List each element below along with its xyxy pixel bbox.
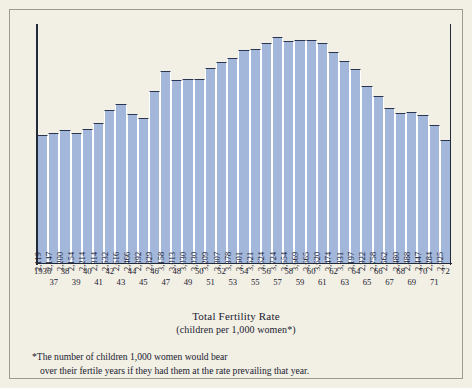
bar-48: 3,013: [171, 80, 182, 264]
bar-52: 3,307: [216, 62, 227, 264]
bar-series: 2,1192,1472,2002,1542,2142,3142,5322,616…: [37, 26, 451, 264]
bar-64: 3,197: [350, 69, 361, 264]
bar-46: 2,829: [149, 91, 160, 264]
bar-43: 2,616: [115, 104, 126, 264]
bar-53: 3,378: [227, 58, 238, 264]
plot-area: 2,1192,1472,2002,1542,2142,3142,5322,616…: [37, 26, 451, 264]
bar-47: 3,158: [160, 71, 171, 264]
bar-65: 2,922: [361, 86, 372, 264]
x-axis-line: [36, 263, 452, 264]
bar-63: 3,331: [339, 61, 350, 264]
footnote-line-1: *The number of children 1,000 women woul…: [32, 351, 228, 362]
bar-37: 2,147: [48, 133, 59, 264]
bar-66: 2,758: [373, 96, 384, 264]
bar-44: 2,466: [127, 114, 138, 264]
bar-59: 3,669: [294, 40, 305, 264]
bar-60: 3,665: [306, 40, 317, 264]
bar-70: 2,447: [417, 115, 428, 264]
x-tick-71: 71: [420, 278, 448, 287]
bar-57: 3,724: [272, 37, 283, 264]
chart-footnote: *The number of children 1,000 women woul…: [32, 350, 452, 377]
bar-69: 2,488: [406, 112, 417, 264]
bar-38: 2,200: [59, 130, 70, 264]
x-tick-72: 72: [431, 267, 459, 276]
chart-title: Total Fertility Rate: [10, 310, 462, 322]
bar-41: 2,314: [93, 123, 104, 264]
bar-50: 3,030: [194, 79, 205, 264]
bar-40: 2,214: [82, 129, 93, 264]
bar-1936: 2,119: [37, 135, 48, 264]
chart-subtitle: (children per 1,000 women*): [10, 324, 462, 335]
bar-42: 2,532: [104, 110, 115, 265]
bar-62: 3,474: [328, 52, 339, 264]
bar-39: 2,154: [71, 133, 82, 264]
bar-55: 3,521: [250, 49, 261, 264]
footnote-line-2: over their fertile years if they had the…: [32, 364, 452, 378]
bar-68: 2,480: [395, 113, 406, 264]
bar-61: 3,620: [317, 43, 328, 264]
bar-56: 3,624: [261, 43, 272, 264]
chart-page: 2,1192,1472,2002,1542,2142,3142,5322,616…: [0, 0, 472, 388]
bar-67: 2,562: [384, 108, 395, 264]
x-axis-tick-labels: 1936373839404142434445464748495051525354…: [37, 266, 451, 292]
y-axis-line: [36, 24, 38, 265]
bar-45: 2,392: [138, 118, 149, 264]
bar-54: 3,501: [238, 50, 249, 264]
bar-51: 3,209: [205, 68, 216, 264]
plot-right-border: [450, 24, 451, 265]
bar-49: 3,030: [182, 79, 193, 264]
bar-58: 3,654: [283, 41, 294, 264]
bar-71: 2,284: [429, 125, 440, 264]
chart-frame: 2,1192,1472,2002,1542,2142,3142,5322,616…: [9, 9, 463, 379]
